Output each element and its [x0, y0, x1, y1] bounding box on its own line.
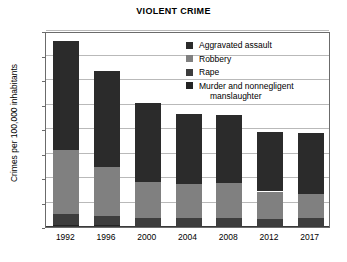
legend-label: Rape [199, 67, 326, 77]
legend-swatch-icon [186, 42, 193, 49]
bar-stack[interactable] [216, 115, 242, 227]
gridline [46, 30, 329, 31]
y-tick-mark [42, 106, 45, 107]
x-axis-line [46, 226, 329, 227]
legend-swatch-icon [186, 69, 193, 76]
bar-segment [298, 218, 324, 226]
legend-label: Aggravated assault [199, 40, 326, 50]
bar-segment [216, 218, 242, 225]
bar-stack[interactable] [257, 132, 283, 227]
bar-segment [176, 184, 202, 218]
bar-segment [53, 214, 79, 225]
bar-segment [53, 150, 79, 215]
bar-segment [257, 132, 283, 192]
y-tick-mark [42, 228, 45, 229]
legend-item-robbery[interactable]: Robbery [186, 54, 326, 65]
bar-stack[interactable] [135, 103, 161, 227]
bar-segment [135, 182, 161, 218]
bar-segment [176, 218, 202, 226]
x-tick-label: 2004 [168, 232, 208, 242]
y-tick-mark [42, 204, 45, 205]
bar-segment [216, 115, 242, 183]
x-tick-label: 2012 [249, 232, 289, 242]
violent-crime-chart: VIOLENT CRIME Crimes per 100,000 inhabit… [0, 0, 347, 262]
chart-legend: Aggravated assault Robbery Rape Murder a… [186, 40, 326, 103]
bar-segment [94, 71, 120, 167]
legend-item-murder[interactable]: Murder and nonnegligent manslaughter [186, 81, 326, 101]
legend-item-rape[interactable]: Rape [186, 67, 326, 78]
bar-segment [176, 114, 202, 185]
bar-segment [135, 218, 161, 226]
x-tick-label: 1996 [86, 232, 126, 242]
bar-segment [298, 194, 324, 218]
bar-stack[interactable] [53, 41, 79, 227]
bar-segment [298, 133, 324, 194]
bar-segment [94, 216, 120, 225]
y-tick-mark [42, 57, 45, 58]
y-tick-mark [42, 179, 45, 180]
legend-swatch-icon [186, 55, 193, 62]
y-tick-mark [42, 130, 45, 131]
legend-label: Murder and nonnegligent [199, 81, 326, 91]
bar-segment [257, 192, 283, 220]
x-tick-label: 2000 [127, 232, 167, 242]
bar-stack[interactable] [298, 133, 324, 227]
bar-segment [94, 167, 120, 216]
y-tick-mark [42, 81, 45, 82]
chart-title: VIOLENT CRIME [0, 6, 347, 16]
x-tick-label: 2017 [290, 232, 330, 242]
y-tick-mark [42, 155, 45, 156]
y-axis-label: Crimes per 100,000 inhabitants [9, 23, 19, 223]
bar-segment [216, 183, 242, 219]
legend-swatch-icon [186, 82, 193, 89]
x-tick-label: 2008 [208, 232, 248, 242]
legend-item-aggravated-assault[interactable]: Aggravated assault [186, 40, 326, 51]
legend-label-line2: manslaughter [199, 91, 326, 101]
x-tick-label: 1992 [45, 232, 85, 242]
bar-segment [135, 103, 161, 182]
y-tick-mark [42, 32, 45, 33]
bar-segment [53, 41, 79, 149]
legend-label: Robbery [199, 54, 326, 64]
bar-stack[interactable] [94, 71, 120, 227]
bar-stack[interactable] [176, 114, 202, 227]
bar-segment [257, 219, 283, 226]
